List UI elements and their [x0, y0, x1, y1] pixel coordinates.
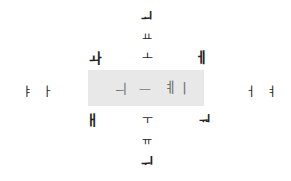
jamo-label: ᅬ [141, 11, 153, 24]
jamo-label: ㅖ [164, 80, 177, 94]
jamo-label: ㅗ [142, 51, 153, 63]
jamo-label: ㅔ [195, 50, 208, 64]
jamo-label: ㅐ [86, 113, 99, 127]
jamo-label: ㅡ [139, 83, 151, 96]
jamo-label: ㅢ [115, 82, 127, 95]
jamo-label: ㅣ [178, 81, 191, 95]
jamo-label: ㅛ [142, 32, 152, 43]
jamo-label: ᅱ [141, 156, 154, 170]
jamo-label: ㅠ [142, 136, 152, 147]
jamo-label: ㅏ [42, 86, 53, 98]
jamo-label: ㅓ [245, 86, 256, 98]
jamo-label: ㅜ [142, 114, 153, 126]
figure-canvas: ᅬㅛㅗㅘㅔㅑㅏㅓㅕㅐㅜᅯㅠᅱㅢㅡㅖㅣ [0, 0, 291, 181]
jamo-label: ㅘ [89, 51, 102, 65]
jamo-label: ㅑ [22, 86, 33, 98]
jamo-label: ᅯ [199, 114, 211, 127]
jamo-label: ㅕ [266, 86, 277, 98]
